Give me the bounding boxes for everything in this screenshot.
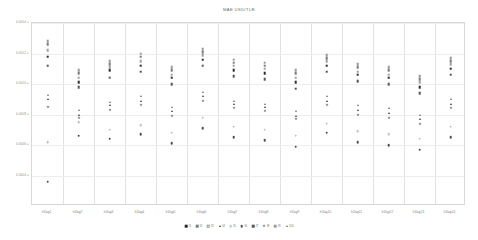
data-point-square-marker — [77, 86, 80, 89]
data-point-square-marker — [294, 87, 297, 90]
data-point-triangle-marker — [388, 112, 390, 114]
data-point-triangle-marker — [295, 110, 297, 112]
data-point-diamond-marker — [356, 113, 359, 116]
data-point-triangle-marker — [357, 109, 359, 111]
data-point-circle-open-marker — [108, 128, 111, 131]
grid-line-vertical — [218, 23, 219, 204]
x-axis: h1lag1h1lag2h1lag3h1lag4h1lag5h1lag6h1la… — [31, 206, 465, 222]
grid-line-vertical — [404, 23, 405, 204]
x-axis-tick-label: h1lag10 — [320, 210, 331, 214]
legend-label: l3 — [211, 224, 213, 228]
data-point-square-open-marker — [232, 58, 235, 61]
legend-label: l2 — [200, 224, 202, 228]
data-point-circle-marker — [263, 139, 266, 142]
data-point-square-marker — [108, 77, 111, 80]
data-point-triangle-marker — [326, 95, 328, 97]
data-point-circle-marker — [294, 145, 297, 148]
data-point-triangle-marker — [140, 100, 142, 102]
data-point-diamond-marker — [139, 104, 142, 107]
data-point-diamond-marker — [232, 107, 235, 110]
data-point-circle-open-marker — [294, 135, 297, 138]
data-point-square-marker — [325, 64, 328, 67]
data-point-triangle-marker — [233, 100, 235, 102]
data-point-square-marker — [387, 69, 390, 72]
data-point-square-marker — [232, 64, 235, 67]
legend-label: l10 — [289, 224, 293, 228]
legend-label: l6 — [245, 224, 247, 228]
data-point-square-marker — [274, 225, 277, 228]
y-axis-tick-label: 0.0012 — [16, 51, 26, 55]
data-point-triangle-marker — [219, 225, 221, 227]
legend-item[interactable]: l1 — [185, 224, 192, 228]
data-point-triangle-marker — [419, 114, 421, 116]
data-point-square-marker — [46, 43, 49, 46]
data-point-square-open-marker — [356, 63, 359, 66]
grid-line-vertical — [311, 23, 312, 204]
data-point-square-marker — [387, 74, 390, 77]
x-axis-tick-label: h1lag5 — [166, 210, 176, 214]
legend-item[interactable]: l5 — [229, 224, 236, 228]
data-point-triangle-marker — [202, 95, 204, 97]
data-point-triangle-marker — [286, 225, 288, 227]
data-point-square-marker — [201, 64, 204, 67]
data-point-square-open-marker — [170, 66, 173, 69]
legend-item[interactable]: l2 — [196, 224, 203, 228]
data-point-triangle-marker — [419, 118, 421, 120]
x-axis-tick-label: h1lag3 — [104, 210, 114, 214]
data-point-square-marker — [201, 58, 204, 61]
data-point-circle-open-marker — [77, 121, 80, 124]
data-point-square-marker — [139, 71, 142, 74]
data-point-circle-marker — [449, 136, 452, 139]
data-point-circle-marker — [170, 142, 173, 145]
legend-item[interactable]: l9 — [274, 224, 281, 228]
data-point-square-marker — [108, 66, 111, 69]
data-point-square-open-marker — [139, 52, 142, 55]
x-axis-tick-label: h1lag4 — [135, 210, 145, 214]
data-point-circle-open-marker — [139, 124, 142, 127]
grid-line-vertical — [156, 23, 157, 204]
data-point-triangle-marker — [78, 109, 80, 111]
legend-item[interactable]: l3 — [207, 224, 214, 228]
x-axis-tick-label: h1lag11 — [351, 210, 362, 214]
plot-area — [31, 22, 465, 205]
data-point-square-marker — [418, 86, 421, 89]
legend-item[interactable]: l4 — [218, 224, 225, 228]
data-point-square-marker — [139, 64, 142, 67]
data-point-square-open-marker — [263, 61, 266, 64]
data-point-square-marker — [418, 92, 421, 95]
data-point-circle-open-marker — [449, 125, 452, 128]
grid-line-vertical — [280, 23, 281, 204]
grid-line-vertical — [94, 23, 95, 204]
y-axis-tick-mark — [27, 174, 29, 175]
data-point-triangle-marker — [171, 110, 173, 112]
legend-swatch — [285, 225, 288, 228]
data-point-triangle-marker — [109, 104, 111, 106]
y-axis-tick-mark — [27, 22, 29, 23]
data-point-square-marker — [387, 83, 390, 86]
legend-item[interactable]: l6 — [240, 224, 247, 228]
data-point-square-marker — [170, 74, 173, 77]
legend-item[interactable]: l8 — [263, 224, 270, 228]
data-point-circle-open-marker — [263, 128, 266, 131]
grid-line-horizontal — [32, 115, 464, 116]
data-point-triangle-marker — [450, 98, 452, 100]
data-point-circle-open-marker — [229, 225, 232, 228]
data-point-diamond-marker — [325, 104, 328, 107]
data-point-square-open-marker — [418, 75, 421, 78]
y-axis-tick-mark — [27, 52, 29, 53]
data-point-circle-marker — [139, 133, 142, 136]
data-point-diamond-marker — [170, 114, 173, 117]
legend-item[interactable]: l10 — [285, 224, 293, 228]
grid-line-horizontal — [32, 145, 464, 146]
data-point-circle-marker — [201, 127, 204, 130]
grid-line-horizontal — [32, 176, 464, 177]
x-axis-tick-label: h1lag12 — [382, 210, 393, 214]
y-axis-tick-label: 0.0014 — [16, 20, 26, 24]
data-point-square-marker — [139, 60, 142, 63]
legend-item[interactable]: l7 — [252, 224, 259, 228]
data-point-circle-open-marker — [387, 133, 390, 136]
data-point-square-open-marker — [449, 57, 452, 60]
data-point-triangle-marker — [202, 91, 204, 93]
data-point-square-marker — [449, 67, 452, 70]
x-axis-tick-label: h1lag13 — [413, 210, 424, 214]
